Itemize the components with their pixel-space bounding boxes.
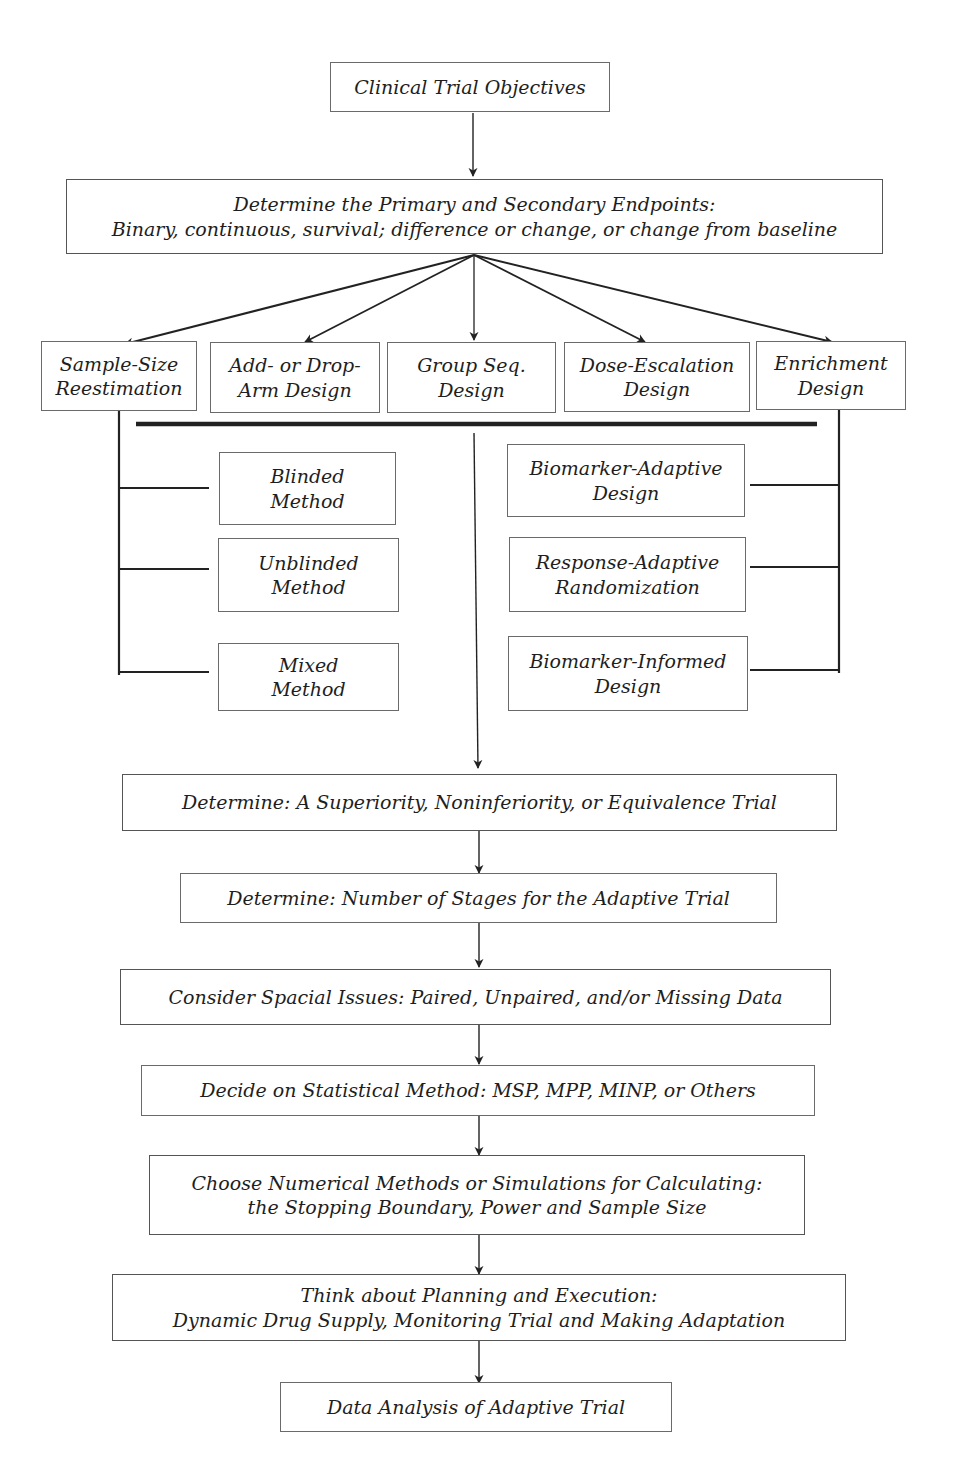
node-response-adaptive-randomization: Response-Adaptive Randomization	[509, 537, 746, 612]
node-label-line2: Arm Design	[238, 378, 352, 402]
node-label-line1: Dose-Escalation	[580, 353, 734, 377]
node-determine-endpoints: Determine the Primary and Secondary Endp…	[66, 179, 883, 254]
arrow-center-to-superiority	[474, 433, 478, 768]
arrow-to-dose-escalation	[474, 255, 645, 342]
node-mixed-method: Mixed Method	[218, 643, 399, 711]
step-label-line1: Choose Numerical Methods or Simulations …	[192, 1171, 763, 1195]
step-planning-execution: Think about Planning and Execution: Dyna…	[112, 1274, 846, 1341]
node-biomarker-adaptive-design: Biomarker-Adaptive Design	[507, 444, 745, 517]
node-label-line2: Design	[624, 377, 691, 401]
node-label-line1: Unblinded	[258, 551, 358, 575]
node-label-line2: Randomization	[555, 575, 700, 599]
node-label: Clinical Trial Objectives	[354, 75, 585, 99]
step-label-line1: Think about Planning and Execution:	[300, 1283, 657, 1307]
node-label-line2: Design	[798, 376, 865, 400]
node-label-line2: Design	[593, 481, 660, 505]
node-add-drop-arm-design: Add- or Drop- Arm Design	[210, 342, 380, 413]
node-label-line1: Enrichment	[774, 351, 887, 375]
node-label-line2: Binary, continuous, survival; difference…	[112, 217, 838, 241]
node-label-line2: Method	[270, 489, 344, 513]
node-label-line1: Determine the Primary and Secondary Endp…	[233, 192, 715, 216]
node-label-line1: Mixed	[279, 653, 339, 677]
node-label-line2: Design	[595, 674, 662, 698]
node-blinded-method: Blinded Method	[219, 452, 396, 525]
node-dose-escalation-design: Dose-Escalation Design	[564, 342, 750, 412]
node-label-line1: Biomarker-Informed	[530, 649, 727, 673]
node-clinical-trial-objectives: Clinical Trial Objectives	[330, 62, 610, 112]
arrow-to-add-drop-arm	[305, 255, 474, 342]
step-label: Consider Spacial Issues: Paired, Unpaire…	[169, 985, 783, 1009]
step-numerical-methods: Choose Numerical Methods or Simulations …	[149, 1155, 805, 1235]
arrow-to-enrichment	[474, 255, 832, 342]
node-label-line1: Response-Adaptive	[536, 550, 720, 574]
step-label: Data Analysis of Adaptive Trial	[327, 1395, 625, 1419]
step-number-of-stages: Determine: Number of Stages for the Adap…	[180, 873, 777, 923]
step-data-analysis: Data Analysis of Adaptive Trial	[280, 1382, 672, 1432]
step-statistical-method: Decide on Statistical Method: MSP, MPP, …	[141, 1065, 815, 1116]
arrow-to-sample-size	[125, 255, 474, 344]
node-sample-size-reestimation: Sample-Size Reestimation	[41, 341, 197, 411]
node-label-line1: Biomarker-Adaptive	[529, 456, 722, 480]
step-special-issues: Consider Spacial Issues: Paired, Unpaire…	[120, 969, 831, 1025]
step-trial-type: Determine: A Superiority, Noninferiority…	[122, 774, 837, 831]
node-label-line2: Design	[438, 378, 505, 402]
node-group-seq-design: Group Seq. Design	[387, 342, 556, 413]
node-label-line1: Blinded	[271, 464, 345, 488]
node-label-line2: Method	[271, 677, 345, 701]
step-label: Determine: A Superiority, Noninferiority…	[182, 790, 777, 814]
node-label-line1: Sample-Size	[60, 352, 179, 376]
step-label: Determine: Number of Stages for the Adap…	[227, 886, 730, 910]
node-label-line1: Group Seq.	[417, 353, 526, 377]
node-label-line2: Reestimation	[56, 376, 183, 400]
node-unblinded-method: Unblinded Method	[218, 538, 399, 612]
node-biomarker-informed-design: Biomarker-Informed Design	[508, 636, 748, 711]
step-label-line2: Dynamic Drug Supply, Monitoring Trial an…	[173, 1308, 785, 1332]
node-label-line2: Method	[271, 575, 345, 599]
node-enrichment-design: Enrichment Design	[756, 341, 906, 410]
node-label-line1: Add- or Drop-	[229, 353, 360, 377]
step-label: Decide on Statistical Method: MSP, MPP, …	[200, 1078, 756, 1102]
step-label-line2: the Stopping Boundary, Power and Sample …	[248, 1195, 707, 1219]
